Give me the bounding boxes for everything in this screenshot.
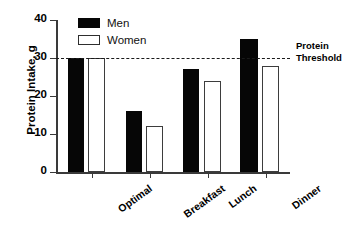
y-tick-label-40: 40: [34, 12, 47, 24]
y-tick-label-0: 0: [41, 164, 47, 176]
x-label-lunch: Lunch: [226, 182, 259, 210]
legend: Men Women: [78, 14, 146, 48]
x-tick-optimal: [92, 172, 93, 178]
protein-threshold-label-line1: Protein: [296, 40, 342, 52]
protein-threshold-label-line2: Threshold: [296, 52, 342, 64]
legend-swatch-women-icon: [78, 35, 100, 45]
legend-label-women: Women: [107, 34, 146, 46]
protein-threshold-line: [56, 58, 290, 59]
x-label-breakfast: Breakfast: [181, 182, 227, 220]
bar-women-lunch: [204, 81, 221, 172]
x-label-optimal: Optimal: [115, 182, 154, 215]
x-tick-dinner: [266, 172, 267, 178]
y-tick-label-10: 10: [34, 126, 47, 138]
y-tick-label-20: 20: [34, 88, 47, 100]
bar-women-optimal: [88, 58, 105, 172]
bar-women-breakfast: [146, 126, 163, 172]
legend-swatch-men-icon: [78, 18, 100, 28]
y-tick-0: 0: [50, 172, 56, 173]
y-tick-20: 20: [50, 96, 56, 97]
legend-item-men: Men: [78, 14, 146, 31]
bar-men-lunch: [183, 69, 199, 172]
x-tick-breakfast: [150, 172, 151, 178]
y-axis-line: [56, 20, 58, 172]
y-tick-label-30: 30: [34, 50, 47, 62]
bar-men-breakfast: [126, 111, 142, 172]
y-tick-40: 40: [50, 20, 56, 21]
y-tick-10: 10: [50, 134, 56, 135]
protein-intake-bar-chart: Protein Intake, g 40 30 20 10 0: [0, 0, 356, 235]
protein-threshold-label: Protein Threshold: [296, 40, 342, 63]
bar-men-optimal: [68, 58, 84, 172]
x-label-dinner: Dinner: [289, 182, 323, 211]
legend-item-women: Women: [78, 31, 146, 48]
bar-women-dinner: [262, 66, 279, 172]
x-tick-lunch: [208, 172, 209, 178]
legend-label-men: Men: [107, 17, 129, 29]
